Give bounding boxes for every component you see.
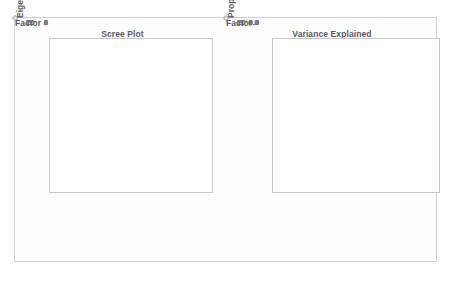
scan-top-text-remnant (0, 0, 450, 12)
scree-plot-chart: Scree Plot Factor Eigenvalue 05101520024… (15, 18, 230, 263)
scree-plot-canvas (15, 18, 230, 263)
variance-explained-chart: Variance Explained Factor Proportion Cum… (226, 18, 438, 263)
y-tick-label: 1.0 (226, 18, 259, 27)
variance-explained-canvas (226, 18, 438, 263)
variance-explained-y-axis-title: Proportion (226, 0, 236, 18)
scree-plot-y-axis-title: Eigenvalue (15, 0, 25, 18)
figure-panel: Scree Plot Factor Eigenvalue 05101520024… (14, 17, 437, 262)
y-tick-label: 8 (15, 18, 48, 27)
